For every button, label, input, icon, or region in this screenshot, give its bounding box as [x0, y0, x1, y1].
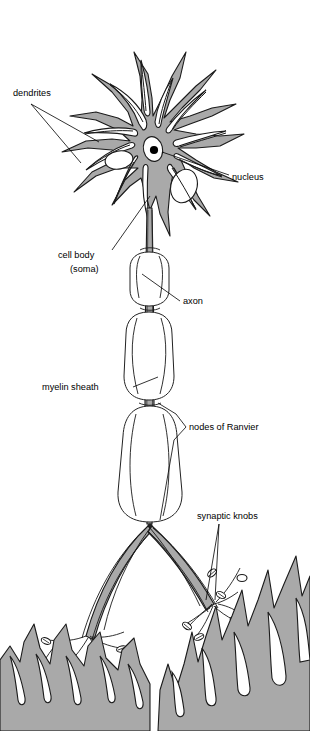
target-cell-nucleus	[237, 575, 247, 582]
myelin-segment-3	[118, 406, 182, 522]
neuron-diagram-svg: dendrites nucleus cell body (soma) axon …	[0, 0, 310, 731]
label-nucleus: nucleus	[232, 172, 264, 182]
label-nodes-of-ranvier: nodes of Ranvier	[189, 422, 258, 432]
myelin-segment-2	[124, 312, 174, 400]
label-soma: (soma)	[70, 264, 99, 274]
neuron-diagram-canvas: dendrites nucleus cell body (soma) axon …	[0, 0, 310, 731]
label-synaptic-knobs: synaptic knobs	[197, 511, 258, 521]
label-dendrites: dendrites	[13, 88, 51, 98]
nucleolus	[150, 146, 158, 154]
label-cell-body: cell body	[58, 250, 95, 260]
label-axon: axon	[183, 296, 203, 306]
label-myelin-sheath: myelin sheath	[42, 382, 99, 392]
